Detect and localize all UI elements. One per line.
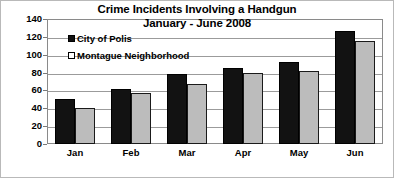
legend-item-0: City of Polis [68, 32, 189, 45]
x-axis: JanFebMarAprMayJun [47, 147, 383, 167]
y-axis-tick-label: 100 [0, 49, 42, 60]
chart-subtitle: January - June 2008 [0, 16, 394, 30]
bar-apr-series-1 [243, 73, 263, 144]
legend-item-1: Montague Neighborhood [68, 49, 189, 62]
bar-feb-series-1 [131, 93, 151, 144]
legend-label: City of Polis [77, 33, 132, 44]
chart-title-block: Crime Incidents Involving a Handgun Janu… [0, 2, 394, 30]
legend-swatch-icon [68, 52, 75, 59]
bar-may-series-0 [279, 62, 299, 144]
x-axis-tick-label-apr: Apr [215, 147, 271, 158]
chart-legend: City of PolisMontague Neighborhood [68, 32, 189, 66]
legend-label: Montague Neighborhood [77, 50, 189, 61]
bar-may-series-1 [299, 71, 319, 144]
legend-swatch-icon [68, 35, 75, 42]
bar-jan-series-1 [75, 108, 95, 144]
y-axis-tick-label: 20 [0, 120, 42, 131]
y-axis: 020406080100120140 [0, 19, 42, 144]
bar-jun-series-0 [335, 31, 355, 144]
x-axis-tick-label-feb: Feb [103, 147, 159, 158]
chart-container: Crime Incidents Involving a Handgun Janu… [0, 0, 394, 178]
x-axis-tick-label-jun: Jun [327, 147, 383, 158]
y-axis-tick-label: 120 [0, 31, 42, 42]
bar-feb-series-0 [111, 89, 131, 144]
y-axis-tick-label: 40 [0, 102, 42, 113]
y-axis-tick-label: 60 [0, 84, 42, 95]
bar-mar-series-1 [187, 84, 207, 144]
y-axis-tick-label: 80 [0, 67, 42, 78]
y-axis-tick-mark [43, 144, 47, 145]
x-axis-tick-label-may: May [271, 147, 327, 158]
bar-jun-series-1 [355, 41, 375, 144]
bar-jan-series-0 [55, 99, 75, 144]
x-axis-tick-label-jan: Jan [47, 147, 103, 158]
chart-title: Crime Incidents Involving a Handgun [0, 2, 394, 16]
bar-apr-series-0 [223, 68, 243, 144]
x-axis-tick-label-mar: Mar [159, 147, 215, 158]
bar-mar-series-0 [167, 74, 187, 144]
y-axis-tick-label: 0 [0, 138, 42, 149]
